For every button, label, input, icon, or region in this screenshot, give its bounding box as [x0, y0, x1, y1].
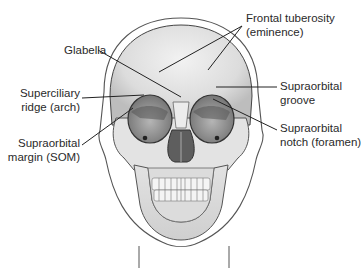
- label-supraorbital-notch: Supraorbital notch (foramen): [280, 121, 361, 149]
- label-line: Supraorbital: [2, 136, 80, 150]
- teeth: [152, 178, 210, 201]
- label-line: notch (foramen): [280, 135, 361, 149]
- right-orbit: [190, 95, 234, 143]
- label-supraorbital-margin: Supraorbital margin (SOM): [2, 136, 80, 164]
- label-line: ridge (arch): [2, 100, 80, 114]
- label-line: Superciliary: [2, 86, 80, 100]
- label-supraorbital-groove: Supraorbital groove: [280, 79, 342, 107]
- left-orbit: [128, 95, 172, 143]
- label-line: Supraorbital: [280, 121, 361, 135]
- label-frontal-tuberosity: Frontal tuberosity (eminence): [246, 11, 335, 39]
- skull-diagram: Frontal tuberosity (eminence) Glabella S…: [0, 0, 361, 268]
- label-glabella: Glabella: [64, 43, 106, 57]
- nasal-bone: [173, 102, 189, 128]
- label-line: (eminence): [246, 25, 335, 39]
- label-line: Supraorbital: [280, 79, 342, 93]
- label-superciliary-ridge: Superciliary ridge (arch): [2, 86, 80, 114]
- label-line: groove: [280, 93, 342, 107]
- label-line: margin (SOM): [2, 150, 80, 164]
- label-line: Frontal tuberosity: [246, 11, 335, 25]
- label-line: Glabella: [64, 43, 106, 57]
